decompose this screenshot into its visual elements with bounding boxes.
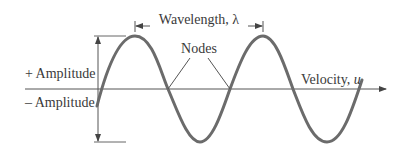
node-pointer-right xyxy=(208,58,230,89)
velocity-text: Velocity, xyxy=(301,72,354,87)
velocity-label: Velocity, u xyxy=(301,72,361,87)
wave-diagram: Wavelength, λ Nodes + Amplitude – Amplit… xyxy=(0,0,402,155)
minus-amplitude-label: – Amplitude xyxy=(24,95,95,110)
wavelength-label: Wavelength, λ xyxy=(159,12,240,27)
plus-amplitude-label: + Amplitude xyxy=(25,66,96,81)
nodes-label: Nodes xyxy=(181,41,217,56)
velocity-symbol: u xyxy=(354,72,361,87)
node-pointer-left xyxy=(168,58,190,89)
